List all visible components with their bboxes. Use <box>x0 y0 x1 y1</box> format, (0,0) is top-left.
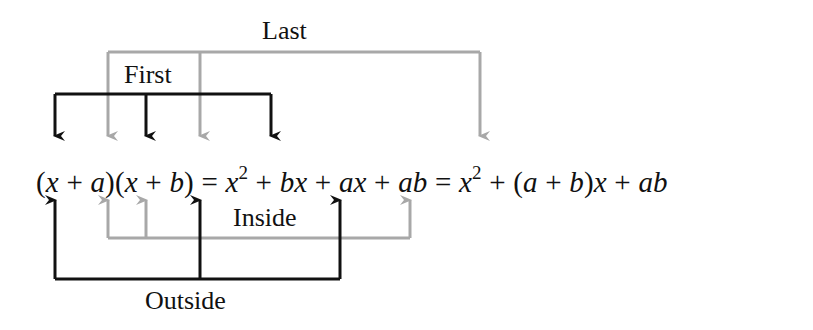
eq-plus: + <box>538 166 569 198</box>
eq-plus: + <box>307 166 338 198</box>
eq-exponent: 2 <box>238 162 248 183</box>
eq-var-x: x <box>125 166 138 198</box>
eq-paren: ) <box>584 166 594 198</box>
eq-term-ab: ab <box>398 166 427 198</box>
eq-paren: ( <box>36 166 46 198</box>
first-bracket <box>55 94 271 136</box>
label-first: First <box>124 60 172 90</box>
foil-connectors <box>0 0 813 330</box>
eq-var-x: x <box>46 166 59 198</box>
eq-equals: = <box>428 166 459 198</box>
foil-equation: (x + a)(x + b) = x2 + bx + ax + ab = x2 … <box>36 166 668 199</box>
eq-term-ax: ax <box>339 166 367 198</box>
eq-exponent: 2 <box>472 162 482 183</box>
eq-term-ab: ab <box>638 166 667 198</box>
label-last: Last <box>262 16 307 46</box>
eq-var-b: b <box>569 166 584 198</box>
eq-plus: + <box>248 166 279 198</box>
eq-var-a: a <box>523 166 538 198</box>
eq-plus: + <box>367 166 398 198</box>
eq-var-x: x <box>594 166 607 198</box>
eq-var-b: b <box>169 166 184 198</box>
eq-plus: + <box>138 166 169 198</box>
eq-plus-paren: + ( <box>482 166 523 198</box>
eq-var-x: x <box>459 166 472 198</box>
eq-plus: + <box>607 166 638 198</box>
eq-var-a: a <box>90 166 105 198</box>
eq-term-bx: bx <box>280 166 308 198</box>
eq-equals: ) = <box>184 166 225 198</box>
eq-paren: )( <box>105 166 125 198</box>
label-outside: Outside <box>145 286 226 316</box>
eq-var-x: x <box>225 166 238 198</box>
eq-plus: + <box>59 166 90 198</box>
label-inside: Inside <box>233 203 297 233</box>
